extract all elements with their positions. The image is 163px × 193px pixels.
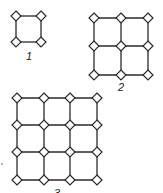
diamond-node-icon [143, 41, 153, 51]
diamond-node-icon [65, 175, 75, 185]
diamond-node-icon [143, 70, 153, 80]
diamond-node-icon [36, 11, 46, 21]
diamond-node-icon [116, 41, 126, 51]
lattice-2: 2 [89, 13, 153, 93]
lattice-label: 3 [54, 187, 61, 193]
diamond-node-icon [116, 13, 126, 23]
diamond-node-icon [11, 37, 21, 47]
diamond-node-icon [12, 120, 22, 130]
diamond-node-icon [116, 70, 126, 80]
lattice-label: 1 [26, 50, 32, 62]
diamond-node-icon [39, 147, 49, 157]
diamond-node-icon [92, 175, 102, 185]
diamond-node-icon [89, 13, 99, 23]
lattice-label: 2 [117, 81, 124, 93]
diamond-node-icon [92, 93, 102, 103]
lattice-diagram: 123 [0, 0, 163, 193]
diamond-node-icon [92, 147, 102, 157]
diamond-node-icon [65, 93, 75, 103]
diamond-node-icon [36, 37, 46, 47]
diamond-node-icon [89, 70, 99, 80]
diamond-node-icon [65, 147, 75, 157]
diamond-node-icon [89, 41, 99, 51]
diamond-node-icon [65, 120, 75, 130]
diamond-node-icon [39, 175, 49, 185]
diamond-node-icon [12, 147, 22, 157]
diamond-node-icon [12, 93, 22, 103]
diamond-node-icon [143, 13, 153, 23]
diamond-node-icon [12, 175, 22, 185]
lattice-3: 3 [12, 93, 102, 193]
stray-dot [1, 163, 3, 165]
lattice-1: 1 [11, 11, 46, 62]
diamond-node-icon [92, 120, 102, 130]
diamond-node-icon [39, 120, 49, 130]
diamond-node-icon [11, 11, 21, 21]
diamond-node-icon [39, 93, 49, 103]
